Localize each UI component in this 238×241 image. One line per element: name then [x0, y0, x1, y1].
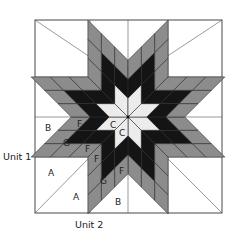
piece-label: C	[119, 128, 125, 138]
quilt-block-diagram: BFCCGFFAGFAB Unit 1Unit 2	[0, 0, 238, 241]
piece-label: F	[85, 144, 90, 154]
unit-label: Unit 1	[3, 151, 31, 162]
piece-label: G	[100, 176, 107, 186]
piece-label: C	[110, 120, 116, 130]
center-point	[127, 116, 130, 119]
piece-label: F	[94, 154, 99, 164]
piece-label: B	[115, 197, 121, 207]
unit-label: Unit 2	[75, 219, 103, 230]
piece-label: F	[77, 119, 82, 129]
piece-label: F	[119, 166, 124, 176]
piece-label: A	[73, 192, 80, 202]
piece-label: A	[48, 168, 55, 178]
piece-label: G	[63, 138, 70, 148]
piece-label: B	[45, 123, 51, 133]
